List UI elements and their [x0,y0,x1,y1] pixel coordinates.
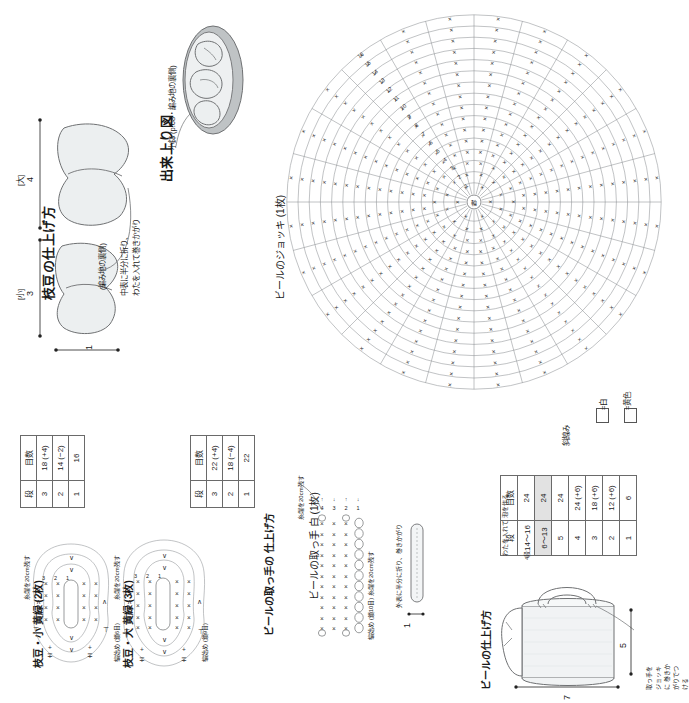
svg-text:×: × [481,126,486,133]
svg-text:×: × [56,592,60,599]
svg-text:×: × [439,120,445,128]
svg-text:×: × [299,128,307,134]
svg-text:3: 3 [134,573,137,579]
svg-text:×: × [44,592,48,599]
svg-text:×: × [490,164,497,172]
svg-text:×: × [642,222,649,227]
svg-text:×: × [44,580,48,587]
svg-text:×: × [82,604,86,611]
svg-text:×: × [558,235,566,241]
svg-text:1: 1 [66,575,69,581]
svg-text:×: × [537,171,545,177]
svg-text:×: × [510,200,517,204]
svg-text:∓: ∓ [47,652,53,659]
svg-text:×: × [365,186,372,191]
svg-text:×: × [400,369,406,377]
svg-text:×: × [490,245,496,253]
edamame-small-title-wrap: 枝豆・小 黄緑 (2枚) [30,668,118,683]
svg-text:×: × [450,359,455,366]
svg-text:×: × [599,253,607,259]
svg-text:⊤: ⊤ [103,626,109,633]
svg-text:×: × [510,168,518,175]
edamame-large-dim-label: 4 [25,177,36,182]
svg-text:×: × [422,79,428,87]
svg-text:×: × [413,175,421,181]
svg-text:×: × [368,120,376,127]
svg-text:×: × [372,239,380,245]
mug-crochet-chart: ××××××××××××××××××××××××××××××××××××××××… [288,16,660,388]
svg-text:×: × [641,128,649,134]
edamame-small-tag: [小] [14,289,25,300]
svg-text:∨: ∨ [69,566,74,573]
svg-text:×: × [555,134,563,141]
svg-text:×: × [433,185,441,191]
svg-text:×: × [320,573,324,580]
svg-text:×: × [617,86,625,93]
svg-text:×: × [496,15,501,22]
svg-text:×: × [512,100,518,108]
cell-dan: 6〜13 [535,521,552,556]
svg-text:×: × [94,604,98,611]
svg-text:×: × [494,26,499,33]
svg-text:×: × [403,147,411,154]
svg-text:×: × [412,154,420,161]
svg-text:×: × [480,137,485,144]
svg-text:×: × [368,277,376,284]
svg-text:×: × [344,573,348,580]
svg-text:×: × [426,89,432,97]
svg-text:×: × [421,317,427,325]
svg-text:×: × [589,248,597,254]
svg-text:×: × [488,70,493,77]
svg-text:×: × [458,304,463,311]
edamame-small-table-wrap: 段 目数 3 18 (+4) 2 14 (−2) 1 16 [20,435,85,508]
svg-text:↑: ↑ [345,496,348,502]
mug-width-label: 7 [562,695,573,700]
svg-text:×: × [398,190,405,195]
svg-text:×: × [568,158,576,164]
svg-text:×: × [501,238,508,246]
svg-text:×: × [403,171,411,177]
svg-text:×: × [298,177,305,182]
svg-text:×: × [423,179,431,185]
svg-text:×: × [608,93,616,100]
svg-text:+: + [182,646,186,653]
svg-text:×: × [320,531,324,538]
svg-text:+: + [88,644,92,651]
handle-finish-title-wrap: ビールの取っ手の 仕上げ方 [262,636,385,651]
svg-text:×: × [430,167,438,174]
svg-text:∨: ∨ [162,636,167,643]
svg-text:×: × [465,248,470,255]
svg-text:∨: ∨ [162,648,167,655]
svg-text:×: × [579,154,587,160]
svg-text:×: × [443,131,449,139]
svg-text:×: × [583,345,590,353]
svg-text:∨: ∨ [162,564,167,571]
svg-text:×: × [382,162,390,168]
svg-text:×: × [581,284,589,291]
svg-text:×: × [608,304,616,311]
svg-text:∨: ∨ [69,646,74,653]
handle-leader-line [296,480,332,516]
svg-text:×: × [332,541,336,548]
svg-text:2: 2 [54,575,57,581]
svg-text:×: × [453,337,458,344]
svg-text:×: × [443,192,451,198]
svg-text:↓: ↓ [333,496,336,502]
svg-text:1: 1 [158,573,161,579]
mug-row-note: 4段 [522,551,531,560]
svg-text:×: × [320,604,324,611]
svg-text:×: × [344,562,348,569]
svg-text:×: × [451,232,458,240]
svg-text:×: × [332,552,336,559]
mug-handle-note: 取っ手をジョッキに 巻きかがりでつける [644,662,689,690]
th-dan: 段 [191,481,207,508]
svg-text:×: × [392,231,400,237]
svg-text:×: × [187,590,191,597]
mug-row-note-wrap: 4段 [522,560,531,569]
svg-text:×: × [537,38,543,46]
svg-text:×: × [554,263,562,270]
edamame-large-dim-label-wrap: 4 [25,182,30,193]
svg-text:×: × [456,315,461,322]
svg-text:×: × [332,562,336,569]
